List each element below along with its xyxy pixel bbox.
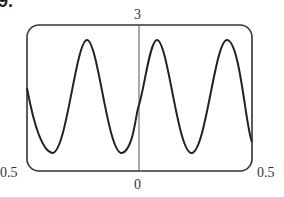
x-min-label: 0.5 (0, 166, 18, 180)
y-max-label: 3 (134, 8, 141, 22)
graph (0, 0, 284, 197)
y-min-label: 0 (134, 178, 141, 192)
x-max-label: 0.5 (257, 166, 275, 180)
